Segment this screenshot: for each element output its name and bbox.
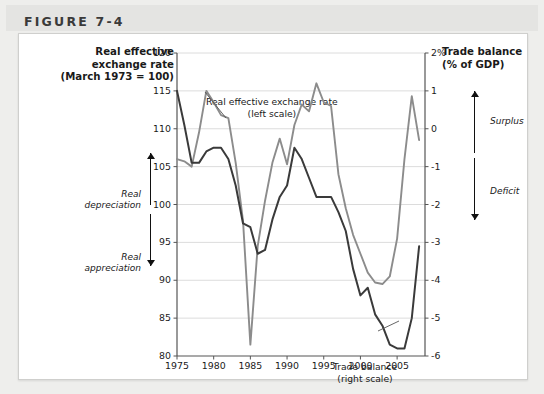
x-axis-tick-2000: 2000 [340, 360, 380, 371]
x-axis-tick-2005: 2005 [377, 360, 417, 371]
left-axis-tick-100: 100 [145, 199, 171, 210]
left-axis-tick-115: 115 [145, 85, 171, 96]
figure-label: FIGURE 7-4 [24, 14, 125, 29]
left-axis-tick-85: 85 [145, 312, 171, 323]
right-axis-tick-2%: 2% [431, 47, 461, 58]
right-axis-tick--4: -4 [431, 274, 461, 285]
left-axis-tick-90: 90 [145, 274, 171, 285]
x-axis-tick-1985: 1985 [230, 360, 270, 371]
figure-root: FIGURE 7-4 Real effective exchange rate … [0, 0, 544, 394]
right-axis-tick-1: 1 [431, 85, 461, 96]
x-axis-tick-1980: 1980 [194, 360, 234, 371]
x-axis-tick-1990: 1990 [267, 360, 307, 371]
left-axis-tick-110: 110 [145, 123, 171, 134]
x-axis-tick-1975: 1975 [157, 360, 197, 371]
left-axis-tick-105: 105 [145, 161, 171, 172]
right-axis-tick--5: -5 [431, 312, 461, 323]
right-axis-tick--2: -2 [431, 199, 461, 210]
right-axis-tick--6: -6 [431, 350, 461, 361]
x-axis-tick-1995: 1995 [304, 360, 344, 371]
right-axis-tick--3: -3 [431, 236, 461, 247]
right-axis-tick-0: 0 [431, 123, 461, 134]
left-axis-tick-95: 95 [145, 236, 171, 247]
left-axis-tick-120: 120 [145, 47, 171, 58]
figure-card: Real effective exchange rate (March 1973… [18, 33, 528, 380]
figure-header-bar: FIGURE 7-4 [6, 5, 538, 31]
right-axis-tick--1: -1 [431, 161, 461, 172]
